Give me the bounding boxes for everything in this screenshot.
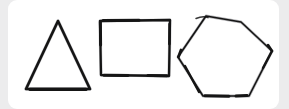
figure-canvas	[0, 0, 289, 109]
shapes-drawing	[0, 0, 289, 109]
triangle-outline	[26, 21, 90, 89]
hexagon-right-lower-accent	[263, 51, 272, 68]
shape-hexagon[interactable]	[178, 16, 272, 96]
shape-triangle[interactable]	[26, 21, 90, 89]
hexagon-left-vertex-accent	[178, 50, 181, 57]
hexagon-lower-left-accent	[185, 66, 199, 92]
triangle-left-edge-accent	[34, 23, 57, 72]
square-outline	[100, 20, 170, 76]
hexagon-bottom-accent-right	[236, 95, 247, 96]
square-outline-underlay	[100, 20, 170, 76]
shape-square[interactable]	[100, 20, 170, 76]
hexagon-outline-underlay	[178, 16, 272, 96]
hexagon-outline	[178, 16, 272, 96]
triangle-outline-underlay	[26, 21, 90, 89]
